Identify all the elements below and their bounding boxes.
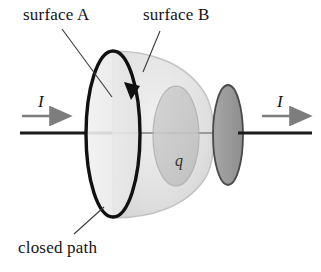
label-surface-a: surface A [23,5,89,25]
physics-figure: surface A surface B closed path I I q [0,0,321,272]
figure-canvas [0,0,321,272]
current-label-right: I [277,92,283,112]
inner-charge-ellipse [153,86,199,186]
capacitor-plate-disc [213,85,243,185]
label-surface-b: surface B [143,5,209,25]
current-label-left: I [38,92,44,112]
closed-path-leader-line [74,207,104,234]
label-closed-path: closed path [18,238,97,258]
charge-label: q [175,152,183,170]
